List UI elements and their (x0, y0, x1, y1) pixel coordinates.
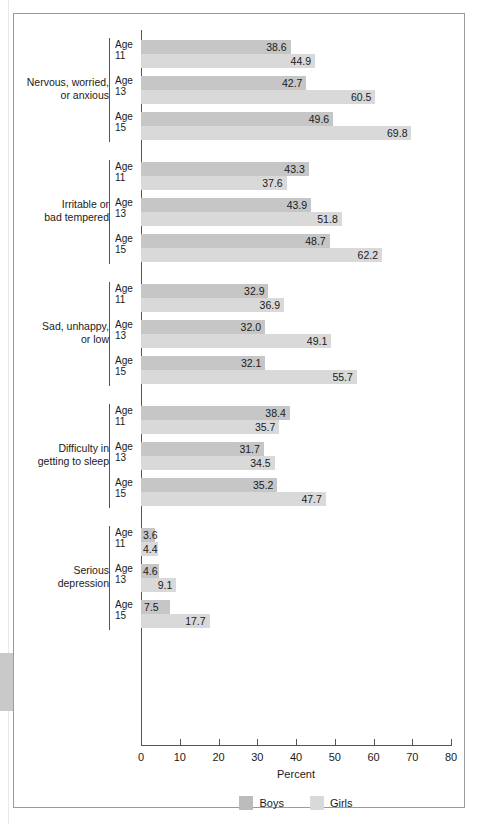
bar-value-label: 9.1 (146, 578, 172, 592)
bar-value-label: 3.6 (143, 528, 169, 542)
age-label-line2: 13 (115, 208, 139, 219)
x-axis-tick (141, 739, 142, 746)
age-label: Age15 (115, 599, 139, 621)
x-axis-tick-label: 50 (329, 751, 341, 763)
bar-value-label: 38.4 (260, 406, 286, 420)
age-label: Age11 (115, 161, 139, 183)
bar-value-label: 4.4 (143, 542, 169, 556)
group-label-line1: Nervous, worried, (5, 76, 109, 89)
bar-value-label: 49.1 (301, 334, 327, 348)
group-bracket (109, 404, 110, 508)
bar-value-label: 37.6 (257, 176, 283, 190)
age-label: Age11 (115, 39, 139, 61)
bar-value-label: 51.8 (312, 212, 338, 226)
age-label-line2: 15 (115, 122, 139, 133)
group-label: Nervous, worried,or anxious (5, 76, 109, 102)
group-label-line2: depression (5, 577, 109, 590)
x-axis-tick-label: 10 (174, 751, 186, 763)
bar-value-label: 34.5 (245, 456, 271, 470)
age-label: Age15 (115, 477, 139, 499)
group-label-line2: getting to sleep (5, 455, 109, 468)
age-label: Age13 (115, 197, 139, 219)
age-label-line2: 11 (115, 50, 139, 61)
group-bracket (109, 526, 110, 630)
age-label: Age11 (115, 283, 139, 305)
age-label-line1: Age (115, 563, 139, 574)
age-label-line1: Age (115, 39, 139, 50)
bar-value-label: 55.7 (327, 370, 353, 384)
bar-girls (141, 126, 411, 140)
bar-girls (141, 248, 382, 262)
chart-legend: BoysGirls (141, 796, 451, 810)
age-label-line2: 15 (115, 488, 139, 499)
age-label-line1: Age (115, 161, 139, 172)
x-axis-tick (451, 739, 452, 746)
bar-value-label: 17.7 (180, 614, 206, 628)
bar-value-label: 35.7 (249, 420, 275, 434)
bar-value-label: 4.6 (143, 564, 169, 578)
x-axis-tick-label: 0 (138, 751, 144, 763)
age-label-line2: 15 (115, 610, 139, 621)
age-label-line2: 13 (115, 574, 139, 585)
x-axis-tick (219, 739, 220, 746)
group-bracket (109, 282, 110, 386)
x-axis-tick (335, 739, 336, 746)
chart-plot-area: 01020304050607080 Age1138.644.9Age1342.7… (0, 0, 479, 824)
x-axis-tick-label: 30 (251, 751, 263, 763)
bar-value-label: 44.9 (285, 54, 311, 68)
age-label-line2: 11 (115, 416, 139, 427)
age-label-line1: Age (115, 477, 139, 488)
x-axis-tick-label: 60 (367, 751, 379, 763)
age-label: Age13 (115, 563, 139, 585)
group-label: Irritable orbad tempered (5, 198, 109, 224)
age-label-line1: Age (115, 441, 139, 452)
age-label: Age13 (115, 441, 139, 463)
x-axis-title: Percent (141, 768, 451, 780)
bar-value-label: 43.3 (279, 162, 305, 176)
group-label-line1: Difficulty in (5, 442, 109, 455)
x-axis-tick (374, 739, 375, 746)
bar-value-label: 38.6 (261, 40, 287, 54)
bar-girls (141, 90, 375, 104)
bar-value-label: 47.7 (296, 492, 322, 506)
group-bracket (109, 38, 110, 142)
x-axis-tick (180, 739, 181, 746)
x-axis-tick (257, 739, 258, 746)
group-label: Seriousdepression (5, 564, 109, 590)
age-label-line1: Age (115, 283, 139, 294)
bar-value-label: 35.2 (247, 478, 273, 492)
age-label-line1: Age (115, 233, 139, 244)
legend-swatch-boys (239, 796, 253, 810)
x-axis-tick-label: 80 (445, 751, 457, 763)
bar-value-label: 32.9 (238, 284, 264, 298)
legend-swatch-girls (310, 796, 324, 810)
age-label: Age13 (115, 319, 139, 341)
group-label: Sad, unhappy,or low (5, 320, 109, 346)
age-label: Age15 (115, 233, 139, 255)
bar-value-label: 42.7 (276, 76, 302, 90)
age-label-line2: 15 (115, 244, 139, 255)
x-axis-tick-label: 70 (406, 751, 418, 763)
legend-entry-boys: Boys (239, 796, 283, 810)
age-label-line1: Age (115, 527, 139, 538)
bar-value-label: 31.7 (234, 442, 260, 456)
age-label-line1: Age (115, 355, 139, 366)
age-label-line1: Age (115, 75, 139, 86)
bar-value-label: 48.7 (300, 234, 326, 248)
legend-entry-girls: Girls (310, 796, 353, 810)
age-label-line1: Age (115, 405, 139, 416)
group-label-line2: bad tempered (5, 211, 109, 224)
x-axis-tick (296, 739, 297, 746)
bar-value-label: 43.9 (281, 198, 307, 212)
age-label-line2: 11 (115, 172, 139, 183)
bar-value-label: 36.9 (254, 298, 280, 312)
age-label-line2: 13 (115, 86, 139, 97)
group-label-line1: Sad, unhappy, (5, 320, 109, 333)
age-label: Age15 (115, 111, 139, 133)
age-label: Age15 (115, 355, 139, 377)
bar-value-label: 32.0 (235, 320, 261, 334)
bar-value-label: 69.8 (381, 126, 407, 140)
group-label-line1: Serious (5, 564, 109, 577)
age-label-line1: Age (115, 111, 139, 122)
legend-label: Boys (259, 797, 283, 809)
